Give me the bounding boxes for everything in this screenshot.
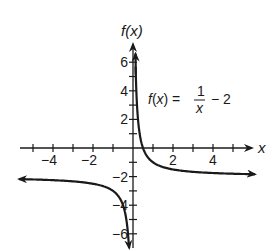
x-tick-label: −2 [81,152,97,168]
x-axis: −4−224 x [20,139,266,168]
equation-rhs: − 2 [211,91,231,107]
equation-lhs: f(x) = [148,91,180,107]
y-tick-label: 2 [120,111,128,127]
function-equation-label: f(x) = 1 x − 2 [148,83,231,116]
x-tick-label: 2 [169,152,177,168]
y-tick-label: 4 [120,83,128,99]
y-axis: 642−2−4−6 f(x) [112,22,143,248]
curve-right-branch [136,67,255,175]
y-axis-label: f(x) [121,22,143,39]
x-tick-label: −4 [41,152,57,168]
y-tick-label: −2 [112,169,128,185]
function-graph: −4−224 x 642−2−4−6 f(x) f(x) = 1 x − 2 [0,0,274,251]
x-axis-tick-labels: −4−224 [41,152,217,168]
equation-numerator: 1 [197,83,205,99]
equation-denominator: x [195,100,204,116]
x-axis-label: x [257,139,266,156]
x-tick-label: 4 [209,152,217,168]
y-tick-label: −6 [112,226,128,242]
y-tick-label: 6 [120,54,128,70]
